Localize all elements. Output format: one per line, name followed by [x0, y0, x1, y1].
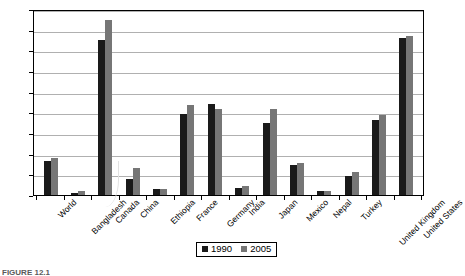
- bar-group: [338, 11, 365, 195]
- bar: [78, 191, 85, 195]
- bar: [324, 191, 331, 195]
- x-axis-tick-label: China: [139, 198, 161, 220]
- bar: [263, 123, 270, 195]
- bar: [215, 109, 222, 195]
- legend-item: 1990: [202, 244, 232, 254]
- figure-caption: FIGURE 12.1: [2, 268, 50, 276]
- bar: [372, 120, 379, 195]
- bar: [235, 188, 242, 195]
- bar-group: [119, 11, 146, 195]
- bar: [242, 186, 249, 195]
- bar-group: [365, 11, 392, 195]
- bar: [317, 191, 324, 195]
- bar: [98, 40, 105, 195]
- legend-swatch-icon: [202, 246, 208, 252]
- bar-group: [393, 11, 420, 195]
- bar-group: [201, 11, 228, 195]
- bar: [133, 168, 140, 195]
- bar: [345, 176, 352, 195]
- bar-group: [146, 11, 173, 195]
- x-axis-tick-label: France: [195, 198, 220, 223]
- bar-group: [229, 11, 256, 195]
- bar-group: [283, 11, 310, 195]
- bar-group: [92, 11, 119, 195]
- bar-group: [256, 11, 283, 195]
- bar-group: [311, 11, 338, 195]
- bar: [187, 105, 194, 195]
- bar: [379, 115, 386, 195]
- bar: [270, 109, 277, 195]
- chart-legend: 19902005: [196, 242, 277, 257]
- bar-group: [37, 11, 64, 195]
- bar: [71, 193, 78, 195]
- plot-area: [33, 10, 424, 196]
- x-axis-tick-label: Japan: [277, 198, 300, 221]
- bar: [153, 189, 160, 195]
- x-axis-tick-label: Nepal: [331, 198, 353, 220]
- x-axis-tick-label: World: [56, 198, 78, 220]
- legend-swatch-icon: [241, 246, 247, 252]
- y-axis: 0100020003000400050006000700080009000: [0, 0, 33, 206]
- bar: [180, 114, 187, 195]
- x-axis-tick-label: Mexico: [305, 198, 330, 223]
- bar-groups: [34, 11, 423, 195]
- bar-group: [174, 11, 201, 195]
- bar: [399, 38, 406, 195]
- bar: [290, 165, 297, 195]
- bar: [297, 163, 304, 195]
- legend-item: 2005: [241, 244, 271, 254]
- x-axis-labels: WorldBangladeshCanadaChinaEthiopiaFrance…: [33, 198, 424, 248]
- x-axis-tick-label: Turkey: [360, 198, 385, 223]
- bar: [406, 36, 413, 195]
- bar: [160, 189, 167, 195]
- bar-group: [64, 11, 91, 195]
- bar: [105, 20, 112, 195]
- legend-label: 1990: [211, 244, 232, 254]
- x-axis-tick-label: Ethiopia: [169, 198, 197, 226]
- bar: [51, 158, 58, 195]
- legend-label: 2005: [250, 244, 271, 254]
- bar: [352, 172, 359, 195]
- bar: [126, 179, 133, 195]
- bar: [208, 104, 215, 195]
- bar: [44, 161, 51, 195]
